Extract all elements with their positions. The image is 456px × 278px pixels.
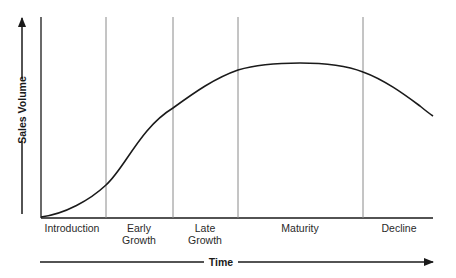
sales-curve [41,63,433,217]
stage-dividers [106,17,363,218]
stage-label-introduction: Introduction [45,222,100,234]
stage-labels: Introduction Early Growth Late Growth Ma… [45,222,417,246]
x-axis-label: Time [209,256,233,268]
stage-label-early-growth-2: Growth [122,234,156,246]
stage-label-late-growth-1: Late [195,222,216,234]
stage-label-decline: Decline [381,222,416,234]
stage-label-early-growth-1: Early [127,222,152,234]
product-life-cycle-diagram: Sales Volume Introduction Early Growth L… [0,0,456,278]
stage-label-late-growth-2: Growth [188,234,222,246]
y-axis-label: Sales Volume [16,76,28,144]
stage-label-maturity: Maturity [281,222,319,234]
